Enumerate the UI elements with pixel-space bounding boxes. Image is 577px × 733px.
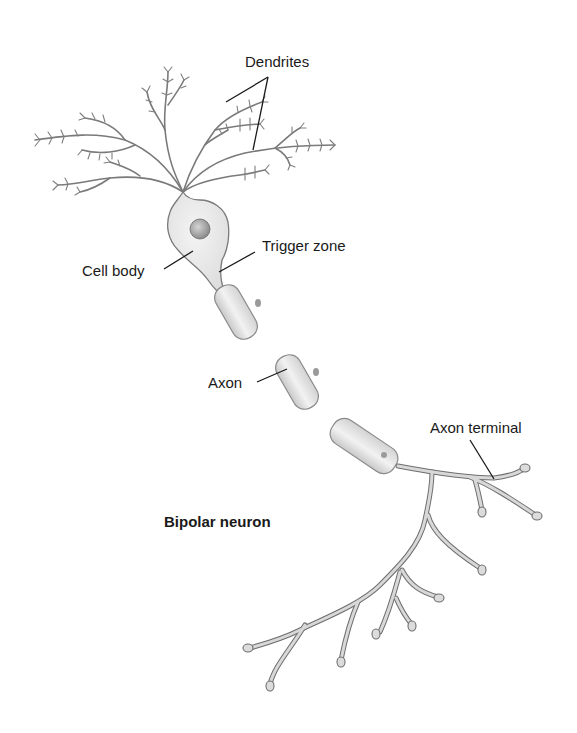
axon-label: Axon (208, 375, 242, 390)
diagram-title: Bipolar neuron (164, 514, 271, 529)
terminal-bouton (337, 657, 345, 667)
myelin-segment (325, 414, 402, 479)
terminal-bouton (520, 464, 530, 472)
dendrites-leader-1 (226, 77, 268, 102)
terminal-bouton (532, 512, 542, 520)
terminal-bouton (266, 681, 274, 691)
axon-terminals (243, 464, 542, 691)
nucleus (190, 219, 210, 239)
dendrites-leader-2 (253, 77, 268, 150)
terminal-bouton (372, 629, 380, 639)
neuron-diagram (0, 0, 577, 733)
axon-terminal-leader (470, 440, 494, 479)
myelin-segment (210, 280, 262, 343)
terminal-bouton (434, 594, 444, 602)
terminal-bouton (243, 644, 253, 652)
terminal-bouton (478, 565, 486, 575)
trigger-zone-label: Trigger zone (262, 238, 346, 253)
cell-body-label: Cell body (82, 263, 145, 278)
axon-terminal-label: Axon terminal (430, 420, 522, 435)
terminal-bouton (408, 621, 416, 631)
dendrites-label: Dendrites (245, 54, 309, 69)
cell-body (168, 192, 229, 292)
dendrites (35, 67, 335, 195)
myelin-segment (271, 350, 323, 413)
terminal-bouton (478, 507, 486, 517)
